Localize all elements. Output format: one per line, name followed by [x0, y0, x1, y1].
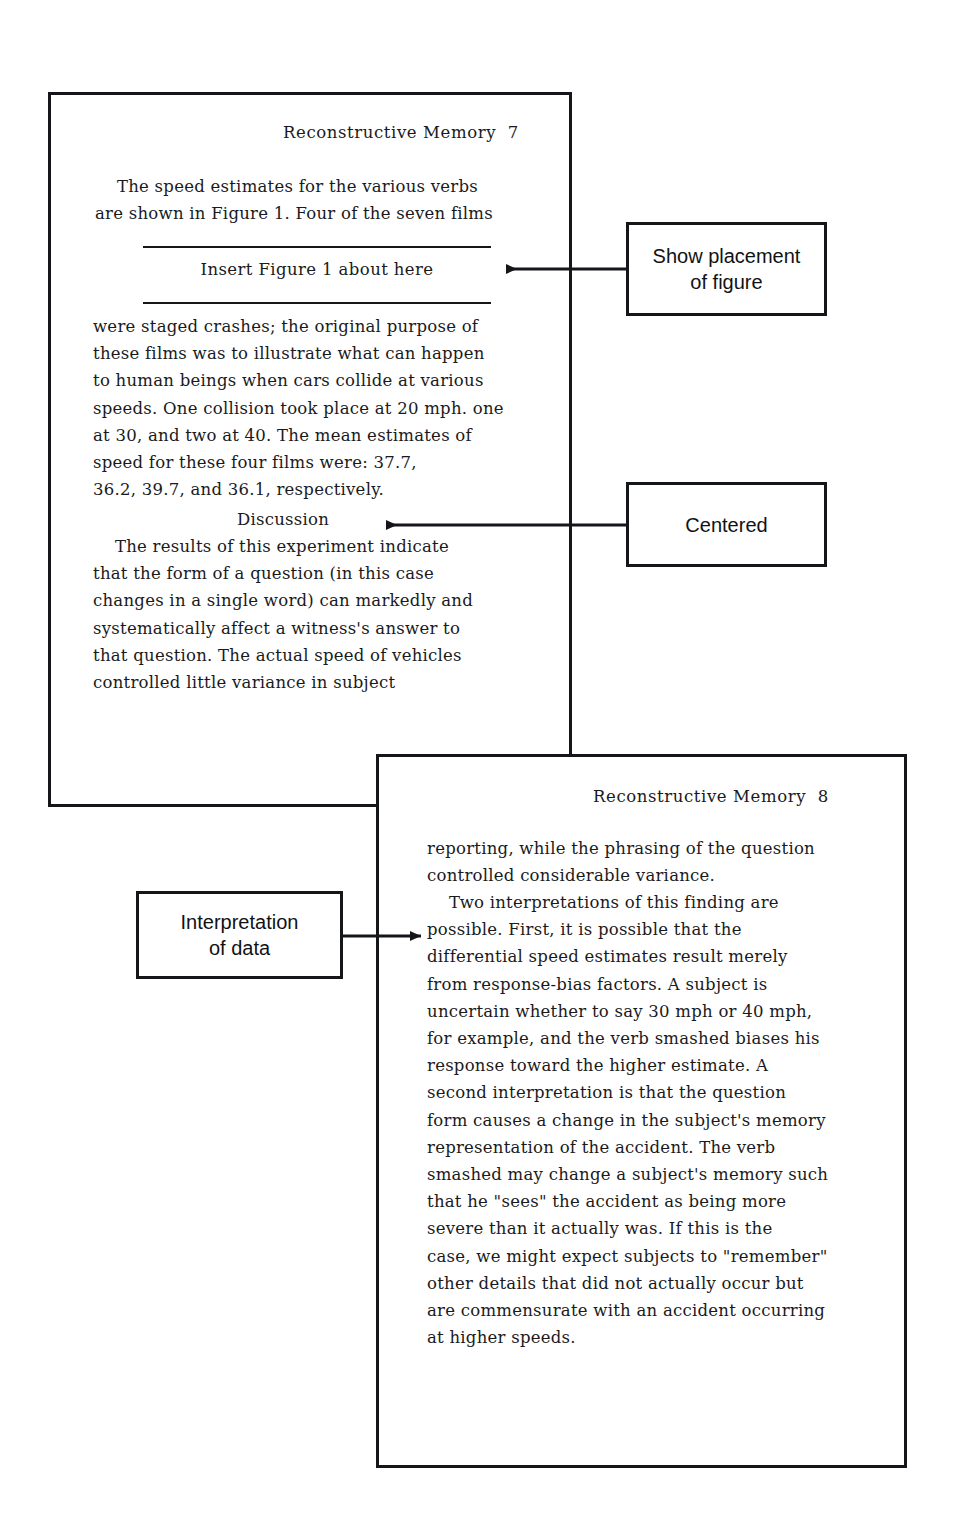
page-8-running-head: Reconstructive Memory 8: [593, 787, 829, 806]
figure-placement-note: Insert Figure 1 about here: [143, 260, 491, 279]
annotation-show-placement-of-figure: Show placement of figure: [626, 222, 827, 316]
page-7-section-heading-discussion: Discussion: [237, 506, 329, 533]
annotation-centered: Centered: [626, 482, 827, 567]
manuscript-page-8: Reconstructive Memory 8 reporting, while…: [376, 754, 907, 1468]
page-8-paragraph-1: reporting, while the phrasing of the que…: [427, 835, 815, 889]
manuscript-page-7: Reconstructive Memory 7 The speed estima…: [48, 92, 572, 807]
figure-placement-rule-top: [143, 246, 491, 248]
page-7-paragraph-2: were staged crashes; the original purpos…: [93, 313, 504, 503]
page-7-running-head: Reconstructive Memory 7: [283, 123, 519, 142]
annotation-interpretation-of-data: Interpretation of data: [136, 891, 343, 979]
page-7-paragraph-3: The results of this experiment indicate …: [93, 533, 473, 696]
page-7-paragraph-1: The speed estimates for the various verb…: [95, 173, 493, 227]
page-8-paragraph-2: Two interpretations of this finding are …: [427, 889, 828, 1351]
figure-placement-rule-bottom: [143, 302, 491, 304]
manuscript-annotation-figure: Reconstructive Memory 7 The speed estima…: [0, 0, 956, 1516]
